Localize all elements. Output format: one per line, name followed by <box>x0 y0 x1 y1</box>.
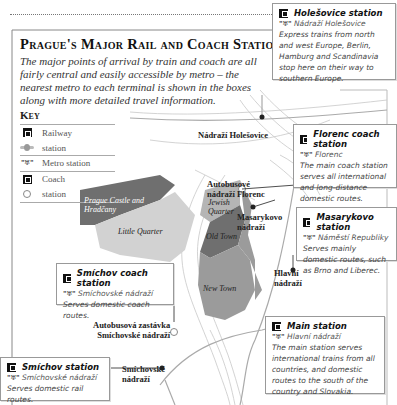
key-item-railway-station: station <box>20 141 115 157</box>
metro-icon: "♅" <box>63 290 72 298</box>
railway-icon <box>7 363 16 372</box>
key-item-metro: "♅" Metro station <box>20 156 115 172</box>
map-key: Key Railway station "♅" Metro station Co… <box>20 109 115 203</box>
map-label-hlavni: Hlavnínádraží <box>274 268 302 288</box>
info-box-florenc: Florenc coach station "♅"Florenc The mai… <box>293 124 397 188</box>
map-label-smichovske: Smíchovskénádraží <box>122 364 165 384</box>
info-box-holesovice: Holešovice station "♅"Nádraží Holešovice… <box>272 3 396 80</box>
map-label-masarykovo: Masarykovonádraží <box>237 212 282 232</box>
info-box-main-station: Main station "♅"Hlavní nádraží The main … <box>265 316 385 394</box>
info-box-smichov-coach: Smíchov coach station "♅"Smíchovské nádr… <box>56 263 174 305</box>
area-label-jewish-quarter: Jewish Quarter <box>208 198 238 216</box>
metro-icon: "♅" <box>20 159 34 167</box>
map-label-smichov-coach: Autobusová zastávkaSmíchovské nádraží <box>93 320 170 340</box>
key-title: Key <box>20 109 115 125</box>
page-title: Prague's Major Rail and Coach Stations <box>20 36 287 53</box>
intro-text: The major points of arrival by train and… <box>20 55 270 107</box>
metro-icon: "♅" <box>7 374 16 382</box>
area-label-new-town: New Town <box>203 284 236 293</box>
metro-icon: "♅" <box>279 20 288 28</box>
coach-icon <box>300 135 307 144</box>
railway-icon <box>20 128 34 137</box>
coach-icon <box>20 175 34 184</box>
area-label-little-quarter: Little Quarter <box>118 227 163 236</box>
map-label-nadrazi-holesovice: Nádraží Holešovice <box>198 130 268 140</box>
metro-icon: "♅" <box>303 234 312 242</box>
map-label-florenc: Autobusovénádraží Florenc <box>207 179 265 199</box>
area-label-old-town: Old Town <box>206 232 237 241</box>
info-box-smichov: Smíchov station "♅"Smíchovské nádraží Se… <box>0 357 110 401</box>
metro-icon: "♅" <box>300 151 309 159</box>
railway-icon <box>303 218 310 227</box>
railway-station-symbol-icon <box>20 146 34 149</box>
railway-icon <box>279 9 288 18</box>
metro-icon: "♅" <box>272 333 281 341</box>
key-item-coach: Coach <box>20 172 115 188</box>
coach-station-symbol-icon <box>20 190 34 198</box>
coach-icon <box>63 274 71 283</box>
info-box-masarykovo: Masarykovo station "♅"Náměstí Republiky … <box>296 207 397 261</box>
railway-icon <box>272 322 281 331</box>
key-item-railway: Railway <box>20 125 115 141</box>
area-label-castle: Prague Castle and Hradčany <box>84 196 154 214</box>
